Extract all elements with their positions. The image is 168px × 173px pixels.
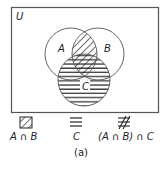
horizontal-lines-icon [70,118,82,126]
set-c-label: C [82,81,89,92]
crosshatch-icon [118,116,130,129]
figure-caption: (a) [74,147,88,158]
legend-label-c: C [73,131,80,142]
set-a-label: A [57,43,65,54]
legend-label-abc: (A ∩ B) ∩ C [98,131,154,142]
universe-label: U [16,11,24,22]
venn-diagram: U A B C A ∩ B C (A ∩ B) ∩ C (a) [0,0,168,173]
set-b-label: B [104,43,111,54]
legend-label-a-intersect-b: A ∩ B [9,131,38,142]
diagonal-hatch-icon [20,117,32,128]
